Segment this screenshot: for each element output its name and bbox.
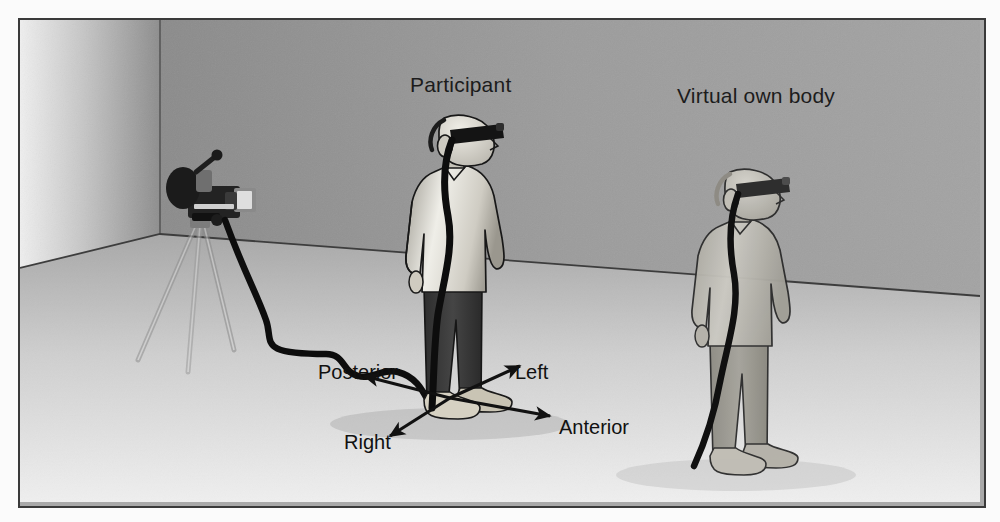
label-virtual-own-body: Virtual own body [677,84,835,108]
direction-label-anterior: Anterior [559,416,629,439]
figure-root: Participant Virtual own body Posterior L… [0,0,1000,522]
direction-label-left: Left [515,361,548,384]
label-participant: Participant [410,73,511,97]
direction-label-posterior: Posterior [318,361,398,384]
scene-frame: Participant Virtual own body Posterior L… [18,18,986,508]
direction-label-right: Right [344,431,391,454]
